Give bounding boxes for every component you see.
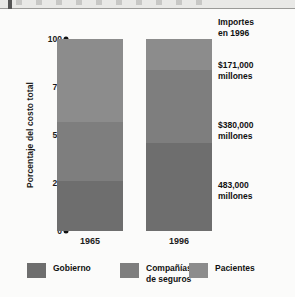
bar-1965-segment-gobierno: [57, 181, 123, 231]
legend-item-seguros[interactable]: Compañías de seguros: [120, 263, 192, 284]
annotation-header-line1: Importes: [218, 17, 254, 28]
annotation-header-line2: en 1996: [218, 28, 254, 39]
legend-item-pacientes[interactable]: Pacientes: [189, 263, 255, 278]
y-tick-label-75: 75: [22, 82, 62, 92]
plot-area: Porcentaje del costo total 100 75 50 25 …: [0, 0, 295, 297]
bar-1965: [57, 39, 123, 231]
bar-1996-segment-gobierno: [146, 143, 212, 231]
annotation-seguros: $380,000 millones: [218, 120, 253, 142]
legend-label-seguros: Compañías de seguros: [146, 263, 192, 284]
legend-swatch-gobierno: [27, 263, 46, 278]
annotation-seguros-unit: millones: [218, 131, 253, 142]
annotation-header: Importes en 1996: [218, 17, 254, 39]
bar-1965-segment-pacientes: [57, 39, 123, 122]
y-tick-label-100: 100: [22, 34, 62, 44]
annotation-gobierno-unit: millones: [218, 191, 252, 202]
y-tick-label-0: 0: [22, 226, 62, 236]
x-tick-label-1965: 1965: [57, 236, 123, 246]
annotation-gobierno-amount: 483,000: [218, 180, 252, 191]
legend-label-pacientes: Pacientes: [215, 263, 255, 274]
bar-1965-segment-seguros: [57, 122, 123, 182]
legend-label-gobierno: Gobierno: [53, 263, 91, 274]
legend-swatch-seguros: [120, 263, 139, 278]
legend-item-gobierno[interactable]: Gobierno: [27, 263, 91, 278]
annotation-pacientes-amount: $171,000: [218, 60, 253, 71]
annotation-gobierno: 483,000 millones: [218, 180, 252, 202]
y-tick-label-25: 25: [22, 178, 62, 188]
bar-1996: [146, 39, 212, 231]
bar-1996-segment-pacientes: [146, 39, 212, 70]
legend-swatch-pacientes: [189, 263, 208, 278]
annotation-pacientes: $171,000 millones: [218, 60, 253, 82]
annotation-pacientes-unit: millones: [218, 71, 253, 82]
chart-page: Porcentaje del costo total 100 75 50 25 …: [0, 0, 295, 297]
annotation-seguros-amount: $380,000: [218, 120, 253, 131]
x-tick-label-1996: 1996: [146, 236, 212, 246]
bar-1996-segment-seguros: [146, 70, 212, 143]
y-tick-label-50: 50: [22, 130, 62, 140]
